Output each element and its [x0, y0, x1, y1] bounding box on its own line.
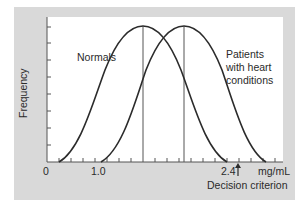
patients-label-line2: with heart [225, 61, 272, 73]
x-tick-0: 0 [43, 165, 49, 177]
decision-criterion-arrow-icon [235, 163, 241, 176]
normals-label: Normals [77, 51, 116, 63]
patients-label-line3: conditions [226, 74, 273, 86]
y-axis-label: Frequency [17, 68, 29, 118]
decision-criterion-label: Decision criterion [207, 179, 288, 191]
patients-label-line1: Patients [226, 48, 264, 60]
bell-curve-chart: Normals Patients with heart conditions F… [0, 0, 305, 208]
x-unit-label: mg/mL [258, 165, 290, 177]
x-tick-2-4: 2.4 [221, 165, 236, 177]
x-tick-1: 1.0 [91, 165, 106, 177]
